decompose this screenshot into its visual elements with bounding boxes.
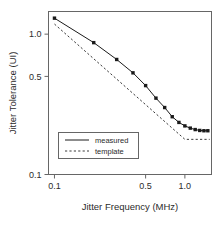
y-axis-title: Jitter Tolerance (UI) (7, 52, 18, 135)
data-point-marker (115, 58, 118, 61)
data-point-marker (177, 121, 180, 124)
data-point-marker (202, 129, 205, 132)
x-tick-label: 0.5 (139, 181, 152, 191)
data-point-marker (198, 129, 201, 132)
data-point-marker (171, 115, 174, 118)
data-point-marker (53, 16, 56, 19)
chart-figure-root: 0.10.51.0 0.10.51.0 measured template Ji… (0, 0, 223, 228)
legend-label-template: template (95, 147, 124, 156)
legend-label-measured: measured (95, 136, 128, 145)
data-point-marker (144, 84, 147, 87)
chart-legend: measured template (59, 133, 139, 159)
data-point-marker (206, 129, 209, 132)
data-point-marker (183, 124, 186, 127)
x-axis-title: Jitter Frequency (MHz) (82, 201, 179, 212)
y-tick-label: 0.5 (29, 72, 42, 82)
data-point-marker (194, 128, 197, 131)
y-tick-label: 0.1 (29, 170, 42, 180)
y-tick-label: 1.0 (29, 29, 42, 39)
x-tick-label: 1.0 (179, 181, 192, 191)
data-point-marker (163, 106, 166, 109)
x-tick-label: 0.1 (48, 181, 61, 191)
data-point-marker (92, 41, 95, 44)
jitter-tolerance-chart: 0.10.51.0 0.10.51.0 measured template Ji… (0, 0, 223, 228)
data-point-marker (154, 96, 157, 99)
data-point-marker (189, 126, 192, 129)
data-point-marker (131, 71, 134, 74)
